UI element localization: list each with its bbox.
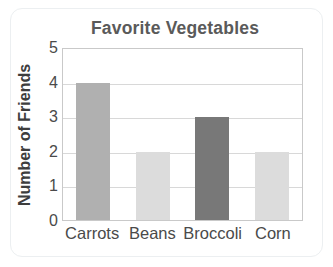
chart-title: Favorite Vegetables <box>40 18 310 39</box>
bar-slot <box>183 49 243 220</box>
y-tick-label: 1 <box>36 178 58 194</box>
bar-slot <box>242 49 302 220</box>
chart-screenshot: Favorite Vegetables Number of Friends 5 … <box>0 0 333 267</box>
x-axis-tick-labels: Carrots Beans Broccoli Corn <box>62 224 303 248</box>
y-tick-label: 4 <box>36 75 58 91</box>
y-axis-title-text: Number of Friends <box>16 64 34 206</box>
y-axis-title: Number of Friends <box>14 48 36 222</box>
y-tick-label: 0 <box>36 213 58 229</box>
y-tick-label: 5 <box>36 40 58 56</box>
x-tick-label-beans: Beans <box>122 224 182 248</box>
bar-beans[interactable] <box>136 152 170 220</box>
bar-corn[interactable] <box>255 152 289 220</box>
x-tick-label-carrots: Carrots <box>62 224 122 248</box>
x-tick-label-corn: Corn <box>243 224 303 248</box>
y-axis-tick-labels: 5 4 3 2 1 0 <box>36 40 58 230</box>
y-tick-label: 2 <box>36 144 58 160</box>
y-tick-label: 3 <box>36 109 58 125</box>
plot-area <box>62 48 303 221</box>
bar-carrots[interactable] <box>76 83 110 220</box>
bar-broccoli[interactable] <box>195 117 229 220</box>
bar-slot <box>63 49 123 220</box>
bar-series <box>63 49 302 220</box>
x-tick-label-broccoli: Broccoli <box>183 224 243 248</box>
bar-slot <box>123 49 183 220</box>
